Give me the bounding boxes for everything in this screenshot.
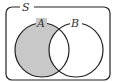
universe-label: S xyxy=(22,1,30,14)
set-b-label: B xyxy=(70,17,79,30)
set-a-label: A xyxy=(36,17,45,30)
venn-diagram: S A B xyxy=(0,0,114,82)
